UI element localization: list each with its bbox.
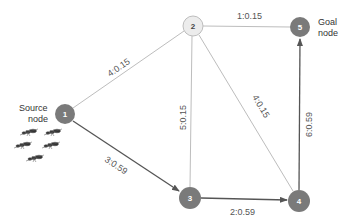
- edge-label-1-3: 3:0.59: [103, 154, 129, 176]
- edge-4-5: [299, 39, 300, 190]
- edge-2-3: [190, 36, 192, 187]
- goal-label-line1: Goal: [318, 17, 337, 27]
- edge-label-2-4: 4:0.15: [250, 93, 271, 120]
- node-3-label: 3: [188, 194, 193, 203]
- node-3: 3: [179, 187, 201, 209]
- edge-label-2-3: 5:0.15: [178, 105, 188, 130]
- edge-label-4-5: 6:0.59: [304, 112, 314, 137]
- goal-label-line2: node: [318, 28, 338, 38]
- edge-2-5: [203, 26, 290, 27]
- edge-1-2: [73, 31, 184, 108]
- node-4: 4: [288, 190, 310, 212]
- node-2-label: 2: [191, 22, 196, 31]
- node-4-label: 4: [297, 197, 302, 206]
- ants-icon: [14, 129, 62, 162]
- node-2: 2: [183, 16, 203, 36]
- edge-label-3-4: 2:0.59: [230, 207, 255, 217]
- node-1: 1: [55, 104, 75, 124]
- edge-1-3: [73, 121, 179, 191]
- node-5-label: 5: [298, 23, 303, 32]
- edge-3-4: [201, 198, 287, 200]
- edge-2-4: [199, 35, 293, 191]
- node-1-label: 1: [63, 110, 68, 119]
- edge-label-2-5: 1:0.15: [237, 11, 262, 21]
- source-label-line2: node: [28, 114, 48, 124]
- ant-colony-graph: 4:0.15 1:0.15 5:0.15 4:0.15 3:0.59 2:0.5…: [0, 0, 348, 223]
- node-5: 5: [290, 17, 310, 37]
- source-label-line1: Source: [19, 103, 48, 113]
- edge-label-1-2: 4:0.15: [106, 56, 132, 78]
